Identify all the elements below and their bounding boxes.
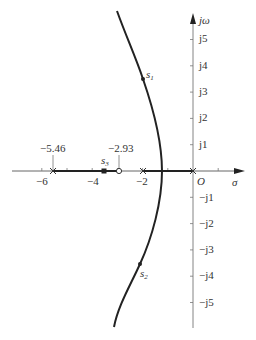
y-tick-label: −j4: [199, 270, 214, 281]
x-tick-label: −4: [87, 176, 99, 187]
s2-label: s2: [140, 268, 148, 281]
root-locus-plot: [0, 0, 256, 340]
imaginary-axis-arrow-icon: [190, 13, 196, 24]
x-tick-label: −6: [36, 176, 48, 187]
x-tick-label: −2: [136, 176, 148, 187]
s3-label: s3: [101, 155, 109, 168]
y-tick-label: j4: [199, 60, 208, 71]
y-tick-label: −j3: [199, 244, 214, 255]
y-tick-label: j1: [199, 139, 208, 150]
y-tick-label: j3: [199, 86, 208, 97]
real-axis-arrow-icon: [234, 168, 245, 174]
annotation-label: −5.46: [40, 143, 65, 154]
y-tick-label: j2: [199, 112, 208, 123]
y-tick-label: j5: [199, 33, 208, 44]
s1-marker-icon: [141, 77, 145, 81]
s3-marker-icon: [102, 169, 107, 174]
y-tick-label: −j2: [199, 218, 214, 229]
annotation-label: −2.93: [108, 143, 133, 154]
origin-label: O: [197, 176, 205, 187]
y-tick-label: −j5: [199, 297, 214, 308]
s1-label: s1: [146, 69, 154, 82]
s2-marker-icon: [138, 262, 142, 266]
zero-marker-icon: [116, 168, 121, 173]
sigma-axis-label: σ: [232, 177, 237, 188]
jw-axis-label: jω: [199, 15, 210, 26]
y-tick-label: −j1: [199, 192, 214, 203]
